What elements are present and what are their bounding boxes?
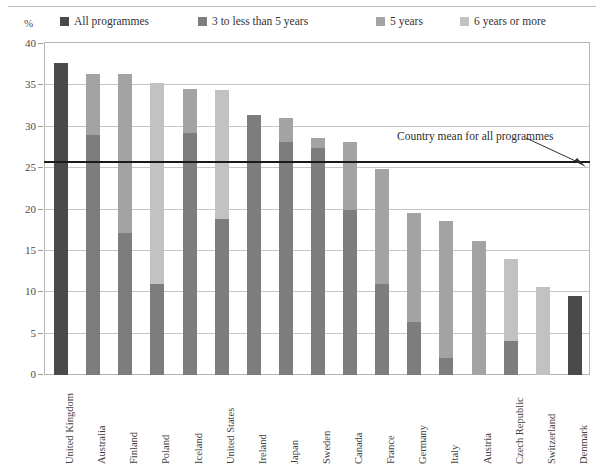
x-axis-tick-label: Australia: [97, 426, 107, 465]
x-axis-tick-label: France: [386, 435, 396, 464]
x-axis-tick-label: Italy: [450, 445, 460, 464]
y-axis-tick-label: 20: [25, 204, 36, 214]
bar-column[interactable]: [279, 44, 293, 375]
bar-column[interactable]: [86, 44, 100, 375]
bar-segment: [311, 138, 325, 149]
bar-segment: [536, 287, 550, 375]
bar-segment: [183, 89, 197, 133]
bar-column[interactable]: [183, 44, 197, 375]
annotation-arrow-icon: [524, 136, 594, 172]
bar-column[interactable]: [472, 44, 486, 375]
x-axis-tick-label: Japan: [290, 440, 300, 464]
y-axis-tick-mark: [38, 84, 43, 85]
bar-column[interactable]: [568, 44, 582, 375]
bar-segment: [215, 90, 229, 219]
bar-segment: [86, 135, 100, 375]
bar-segment: [215, 219, 229, 375]
country-mean-line: [44, 161, 590, 163]
x-axis-tick-label: Canada: [354, 433, 364, 465]
y-axis: 0510152025303540: [0, 42, 40, 375]
bar-segment: [54, 63, 68, 375]
legend-item: 6 years or more: [460, 16, 546, 28]
bar-segment: [247, 115, 261, 375]
top-divider: [8, 6, 596, 7]
y-axis-tick-mark: [38, 43, 43, 44]
y-axis-tick-mark: [38, 209, 43, 210]
bar-segment: [472, 241, 486, 375]
bar-column[interactable]: [439, 44, 453, 375]
bar-segment: [407, 213, 421, 322]
bar-segment: [86, 74, 100, 135]
bar-column[interactable]: [311, 44, 325, 375]
x-axis-tick-label: United States: [226, 408, 236, 464]
x-axis-tick-label: Iceland: [194, 433, 204, 464]
bar-segment: [343, 142, 357, 210]
bar-column[interactable]: [375, 44, 389, 375]
legend-item: 3 to less than 5 years: [198, 16, 308, 28]
y-axis-tick-label: 15: [25, 245, 36, 255]
bar-segment: [311, 148, 325, 375]
y-axis-tick-mark: [38, 291, 43, 292]
x-axis-tick-label: Sweden: [322, 431, 332, 464]
y-axis-tick-label: 0: [31, 369, 37, 379]
legend-swatch-icon: [60, 17, 69, 26]
y-axis-tick-label: 5: [31, 328, 37, 338]
y-axis-tick-label: 25: [25, 162, 36, 172]
y-axis-tick-label: 40: [25, 38, 36, 48]
legend-label: 5 years: [390, 16, 423, 28]
chart-legend: All programmes3 to less than 5 years5 ye…: [0, 16, 604, 32]
chart-container: % All programmes3 to less than 5 years5 …: [0, 0, 604, 467]
y-axis-tick-label: 30: [25, 121, 36, 131]
bar-segment: [150, 83, 164, 284]
x-axis-tick-label: Poland: [161, 435, 171, 464]
bar-segment: [343, 210, 357, 375]
bar-series-group: [45, 42, 589, 374]
x-axis-tick-label: Austria: [483, 433, 493, 464]
legend-item: 5 years: [376, 16, 423, 28]
bar-segment: [407, 322, 421, 375]
legend-label: 6 years or more: [474, 16, 546, 28]
y-axis-tick-mark: [38, 374, 43, 375]
bar-segment: [439, 221, 453, 358]
y-axis-tick-mark: [38, 333, 43, 334]
legend-label: 3 to less than 5 years: [212, 16, 308, 28]
y-axis-tick-label: 35: [25, 79, 36, 89]
x-axis-tick-label: United Kingdom: [65, 393, 75, 464]
x-axis-tick-label: Germany: [418, 425, 428, 464]
legend-item: All programmes: [60, 16, 149, 28]
bar-segment: [504, 259, 518, 341]
bar-segment: [439, 358, 453, 375]
bar-segment: [118, 74, 132, 233]
y-axis-tick-mark: [38, 250, 43, 251]
bar-column[interactable]: [504, 44, 518, 375]
x-axis-tick-label: Finland: [129, 432, 139, 464]
bar-column[interactable]: [54, 44, 68, 375]
x-axis-labels: United KingdomAustraliaFinlandPolandIcel…: [45, 378, 589, 466]
bar-segment: [504, 341, 518, 375]
x-axis-tick-label: Switzerland: [547, 414, 557, 464]
bar-column[interactable]: [407, 44, 421, 375]
bar-column[interactable]: [536, 44, 550, 375]
x-axis-tick-label: Ireland: [258, 434, 268, 464]
bar-segment: [183, 133, 197, 375]
bar-segment: [118, 233, 132, 375]
legend-swatch-icon: [460, 17, 469, 26]
x-axis-tick-label: Denmark: [579, 425, 589, 464]
legend-swatch-icon: [198, 17, 207, 26]
bar-column[interactable]: [247, 44, 261, 375]
bar-column[interactable]: [343, 44, 357, 375]
legend-label: All programmes: [74, 16, 149, 28]
y-axis-tick-mark: [38, 126, 43, 127]
bar-segment: [375, 169, 389, 284]
bar-segment: [279, 118, 293, 143]
bar-column[interactable]: [118, 44, 132, 375]
x-axis-tick-label: Czech Republic: [515, 397, 525, 464]
legend-swatch-icon: [376, 17, 385, 26]
y-axis-tick-mark: [38, 167, 43, 168]
bar-segment: [150, 284, 164, 375]
bar-column[interactable]: [215, 44, 229, 375]
bar-segment: [568, 296, 582, 375]
bar-segment: [375, 284, 389, 375]
bar-column[interactable]: [150, 44, 164, 375]
bar-segment: [279, 142, 293, 375]
